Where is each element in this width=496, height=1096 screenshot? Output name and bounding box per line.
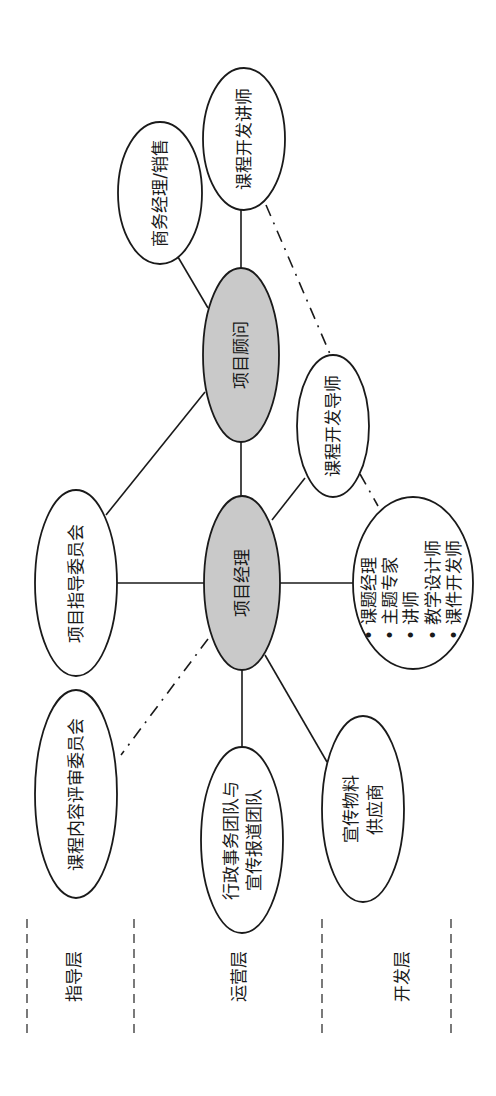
devteam-item-2: • 主题专家 <box>380 557 400 640</box>
edge-manager-mentor <box>272 478 305 520</box>
layer-label-operations: 运营层 <box>229 951 249 1002</box>
devteam-item-1: • 课题经理 <box>359 557 379 640</box>
label-course-dev-mentor: 课程开发导师 <box>323 375 343 477</box>
label-admin-team-line1: 行政事务团队与 <box>221 781 241 900</box>
layer-label-development: 开发层 <box>392 951 412 1002</box>
edge-consultant-steering <box>106 392 205 515</box>
label-business-manager: 商务经理/销售 <box>150 139 170 247</box>
node-admin-team <box>201 747 283 933</box>
org-diagram: 课程开发讲师 商务经理/销售 项目顾问 课程开发导师 项目指导委员会 项目经理 … <box>0 0 496 1096</box>
label-promo-supplier-line1: 宣传物料 <box>341 775 361 843</box>
label-promo-supplier-line2: 供应商 <box>365 784 385 835</box>
devteam-item-5: • 课件开发师 <box>444 540 464 640</box>
label-course-dev-lecturer: 课程开发讲师 <box>234 88 254 190</box>
edge-mentor-devteam <box>360 474 378 506</box>
devteam-item-3: • 讲师 <box>401 591 421 640</box>
label-steering-committee: 项目指导委员会 <box>66 524 86 643</box>
edge-manager-promo <box>265 655 327 762</box>
label-content-review-committee: 课程内容评审委员会 <box>66 718 86 871</box>
label-admin-team-line2: 宣传报道团队 <box>244 789 264 891</box>
node-promo-supplier <box>322 716 404 902</box>
edge-manager-review <box>121 639 208 755</box>
edge-consultant-business <box>178 257 208 308</box>
label-project-manager: 项目经理 <box>232 549 252 617</box>
layer-label-guidance: 指导层 <box>64 951 84 1002</box>
label-project-consultant: 项目顾问 <box>231 321 251 389</box>
devteam-item-4: • 教学设计师 <box>423 540 443 640</box>
